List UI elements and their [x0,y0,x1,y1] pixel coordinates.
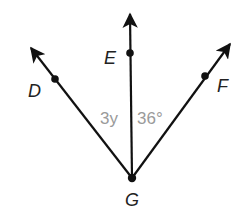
point-e [126,49,134,57]
angle-diagram: D E F G 3y 36° [0,0,246,222]
angle-label-dge: 3y [100,109,118,128]
point-g [128,174,136,182]
label-g: G [125,190,139,210]
label-f: F [217,76,229,96]
label-d: D [28,81,41,101]
point-f [201,72,209,80]
label-e: E [104,48,117,68]
angle-label-egf: 36° [137,109,163,128]
point-d [51,75,59,83]
ray-ge [130,14,132,178]
